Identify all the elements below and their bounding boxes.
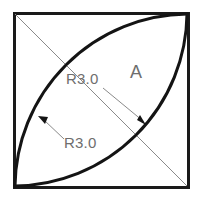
arrowhead-upper-icon: [137, 115, 146, 125]
diagonal-construction-line: [15, 14, 187, 186]
radius-label-lower: R3.0: [64, 134, 97, 151]
zone-label-a: A: [130, 62, 142, 82]
drawing-svg: A R3.0 R3.0: [0, 0, 202, 202]
leader-line-upper: [103, 88, 143, 121]
technical-drawing-canvas: A R3.0 R3.0: [0, 0, 202, 202]
leader-line-lower: [44, 120, 64, 139]
radius-label-upper: R3.0: [66, 70, 99, 87]
